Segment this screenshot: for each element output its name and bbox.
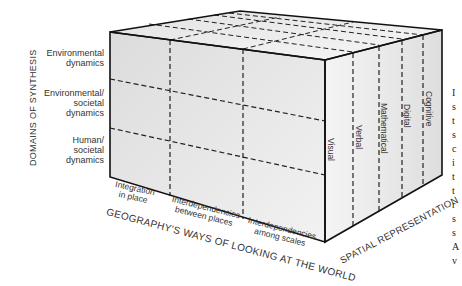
cropped-body-text: Ist sci ttr ssA v <box>452 86 462 268</box>
rep-label-cognitive: Cognitive <box>424 91 434 126</box>
domain-label-env-societal: Environmental/ societal dynamics <box>30 88 104 118</box>
domain-label-environmental: Environmental dynamics <box>30 48 104 68</box>
rep-label-verbal: Verbal <box>354 125 364 149</box>
domain-label-human-societal: Human/ societal dynamics <box>30 135 104 165</box>
rep-label-digital: Digital <box>402 104 412 128</box>
rep-label-mathematical: Mathematical <box>379 103 389 154</box>
rep-label-visual: Visual <box>326 138 336 161</box>
